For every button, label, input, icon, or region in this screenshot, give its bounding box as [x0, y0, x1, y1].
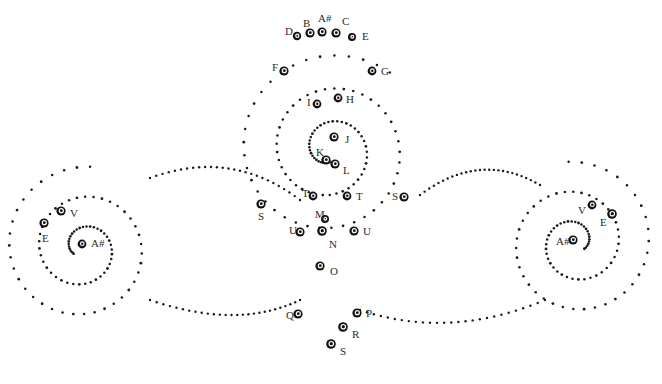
graph-node[interactable]: [331, 28, 340, 37]
path-dot: [376, 64, 379, 67]
path-dot: [471, 319, 473, 321]
path-dot: [594, 306, 597, 309]
path-dot: [516, 256, 519, 259]
graph-node[interactable]: [78, 240, 87, 249]
graph-node[interactable]: [313, 100, 322, 109]
node-label: E: [600, 216, 607, 228]
graph-node[interactable]: [256, 199, 265, 208]
graph-node[interactable]: [352, 308, 361, 317]
node-label: B: [303, 17, 310, 29]
path-dot: [615, 221, 618, 224]
graph-node[interactable]: [39, 218, 48, 227]
graph-node[interactable]: [56, 206, 65, 215]
path-dot: [138, 233, 141, 236]
path-dot: [51, 174, 54, 177]
graph-node[interactable]: [349, 226, 358, 235]
path-dot: [580, 223, 583, 226]
graph-node[interactable]: [305, 28, 314, 37]
node-label: T: [302, 187, 309, 199]
path-dot: [550, 230, 553, 233]
path-dot: [50, 272, 53, 275]
node-label-layer: DBA#CEFGHIJKLTTSSMUNUOQPRSVEA#VEA#: [42, 12, 607, 357]
path-dot: [479, 169, 481, 171]
path-dot: [644, 216, 647, 219]
graph-node[interactable]: [293, 32, 301, 40]
path-dot: [9, 232, 12, 235]
node-label: A#: [556, 235, 570, 247]
node-core-dot: [342, 325, 345, 328]
path-dot: [552, 266, 555, 269]
path-dot: [614, 298, 617, 301]
path-dot: [204, 166, 206, 168]
graph-node[interactable]: [309, 192, 318, 201]
path-dot: [276, 151, 279, 154]
graph-node[interactable]: [326, 339, 336, 349]
node-label: E: [42, 232, 49, 244]
path-dot: [68, 245, 71, 248]
path-dot: [139, 262, 142, 265]
path-dot: [457, 321, 459, 323]
path-dot: [63, 169, 66, 172]
path-dot: [162, 303, 164, 305]
path-dot: [253, 312, 255, 314]
graph-node[interactable]: [330, 159, 339, 168]
node-label: D: [285, 25, 293, 37]
graph-node[interactable]: [348, 33, 356, 41]
path-dot: [363, 140, 366, 143]
graph-node[interactable]: [317, 226, 327, 236]
graph-node[interactable]: [588, 201, 597, 210]
graph-node[interactable]: [315, 261, 324, 270]
path-dot: [282, 118, 285, 121]
path-dot: [269, 309, 271, 311]
graph-node[interactable]: [607, 209, 617, 219]
path-dot: [278, 159, 281, 162]
path-dot: [352, 183, 355, 186]
graph-node[interactable]: [399, 192, 408, 201]
graph-node[interactable]: [568, 235, 577, 244]
path-dot: [515, 309, 517, 311]
graph-node[interactable]: [343, 192, 352, 201]
path-dot: [93, 226, 96, 229]
path-dot: [106, 267, 109, 270]
graph-node[interactable]: [329, 132, 338, 141]
path-dot: [180, 168, 182, 170]
node-core-dot: [346, 195, 348, 197]
graph-node[interactable]: [338, 322, 348, 332]
path-dot: [553, 227, 556, 230]
path-dot: [401, 319, 403, 321]
node-core-dot: [333, 135, 336, 138]
path-dot: [284, 305, 286, 307]
graph-node[interactable]: [279, 66, 288, 75]
path-dot: [360, 135, 363, 138]
path-dot: [253, 102, 256, 105]
path-dot: [408, 320, 410, 322]
path-dot: [589, 277, 592, 280]
path-dot: [539, 184, 541, 186]
path-dot: [295, 184, 298, 187]
path-dot: [250, 179, 253, 182]
graph-node[interactable]: [317, 27, 326, 36]
path-dot: [588, 194, 591, 197]
spiral-diagram: DBA#CEFGHIJKLTTSSMUNUOQPRSVEA#VEA#: [0, 0, 662, 384]
path-dot: [518, 228, 521, 231]
path-dot: [306, 225, 309, 228]
path-dot: [239, 169, 241, 171]
node-label: O: [330, 265, 338, 277]
path-dot: [243, 154, 246, 157]
path-dot: [41, 302, 44, 305]
path-dot: [518, 266, 521, 269]
path-dot: [567, 161, 570, 164]
graph-node[interactable]: [334, 94, 343, 103]
path-dot: [606, 267, 609, 270]
path-dot: [450, 321, 452, 323]
graph-node[interactable]: [368, 67, 377, 76]
path-dot: [577, 222, 580, 225]
path-dot: [210, 166, 212, 168]
path-dot: [560, 273, 563, 276]
path-dot: [497, 169, 499, 171]
node-core-dot: [309, 31, 312, 34]
graph-node[interactable]: [293, 309, 302, 318]
node-core-dot: [337, 97, 339, 99]
path-dot: [42, 261, 45, 264]
path-dot: [103, 307, 106, 310]
